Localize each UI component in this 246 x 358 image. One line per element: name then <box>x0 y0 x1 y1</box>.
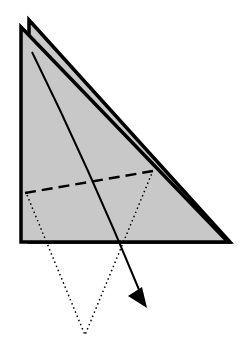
front-paper-layer <box>21 27 228 242</box>
arrow-head-icon <box>128 287 147 308</box>
origami-diagram <box>0 0 246 358</box>
